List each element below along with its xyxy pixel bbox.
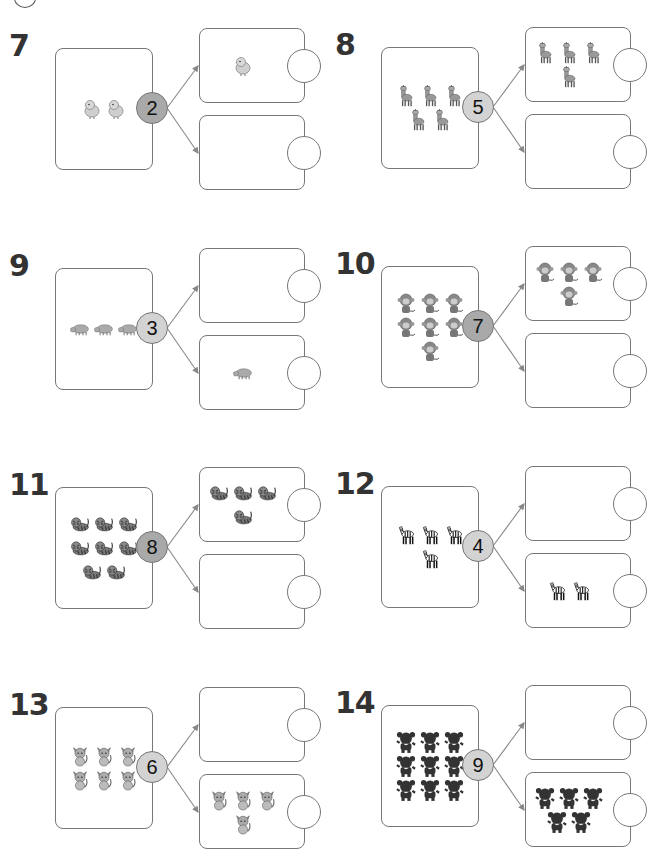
giraffe-icon xyxy=(535,42,555,64)
zebra-icon xyxy=(396,524,416,546)
total-number-circle: 9 xyxy=(462,749,494,781)
total-number-circle: 4 xyxy=(462,530,494,562)
giraffe-icon xyxy=(559,66,579,88)
total-number-circle: 6 xyxy=(136,751,168,783)
part-box-bottom xyxy=(525,553,631,628)
giraffe-icon xyxy=(583,42,603,64)
answer-circle-bottom[interactable] xyxy=(613,354,647,388)
part-box-bottom xyxy=(199,774,305,849)
problem-10: 107 xyxy=(335,246,665,446)
cat-icon xyxy=(233,789,253,811)
chick-icon xyxy=(82,98,102,120)
zebra-icon xyxy=(444,524,464,546)
problem-number: 14 xyxy=(335,685,375,720)
answer-circle-top[interactable] xyxy=(287,49,321,83)
total-number-circle: 3 xyxy=(136,312,168,344)
answer-circle-bottom[interactable] xyxy=(613,574,647,608)
bear-icon xyxy=(420,779,440,801)
total-number-circle: 5 xyxy=(462,91,494,123)
answer-circle-top[interactable] xyxy=(287,488,321,522)
cat-icon xyxy=(118,769,138,791)
bear-icon xyxy=(396,755,416,777)
answer-circle-bottom[interactable] xyxy=(287,356,321,390)
tiger-icon xyxy=(233,482,253,504)
part-box-bottom xyxy=(199,554,305,629)
part-box-bottom xyxy=(525,772,631,847)
total-number-circle: 8 xyxy=(136,531,168,563)
answer-circle-top[interactable] xyxy=(613,267,647,301)
zebra-icon xyxy=(571,580,591,602)
monkey-icon xyxy=(396,292,416,314)
answer-circle-top[interactable] xyxy=(613,487,647,521)
part-box-top xyxy=(199,467,305,542)
bear-icon xyxy=(396,731,416,753)
tiger-icon xyxy=(209,482,229,504)
answer-circle-top[interactable] xyxy=(613,48,647,82)
cat-icon xyxy=(233,813,253,835)
answer-circle-top[interactable] xyxy=(287,269,321,303)
monkey-icon xyxy=(444,316,464,338)
monkey-icon xyxy=(535,261,555,283)
giraffe-icon xyxy=(444,85,464,107)
part-box-bottom xyxy=(199,335,305,410)
tiger-icon xyxy=(106,561,126,583)
problem-number: 13 xyxy=(9,687,49,722)
clock-icon xyxy=(14,0,36,8)
problem-8: 85 xyxy=(335,27,665,227)
monkey-icon xyxy=(559,261,579,283)
tiger-icon xyxy=(94,537,114,559)
cat-icon xyxy=(94,769,114,791)
part-box-top xyxy=(525,685,631,760)
problem-number: 10 xyxy=(335,246,375,281)
cat-icon xyxy=(257,789,277,811)
total-number-circle: 2 xyxy=(136,92,168,124)
tiger-icon xyxy=(70,537,90,559)
monkey-icon xyxy=(420,340,440,362)
bear-icon xyxy=(420,731,440,753)
answer-circle-bottom[interactable] xyxy=(287,575,321,609)
problem-12: 124 xyxy=(335,466,665,666)
bear-icon xyxy=(547,811,567,833)
problem-14: 149 xyxy=(335,685,665,862)
bear-icon xyxy=(571,811,591,833)
bear-icon xyxy=(583,787,603,809)
part-box-bottom xyxy=(199,115,305,190)
problem-number: 9 xyxy=(9,248,29,283)
answer-circle-bottom[interactable] xyxy=(287,795,321,829)
answer-circle-bottom[interactable] xyxy=(613,135,647,169)
tiger-icon xyxy=(118,537,138,559)
part-box-bottom xyxy=(525,114,631,189)
cat-icon xyxy=(70,769,90,791)
monkey-icon xyxy=(420,316,440,338)
part-box-top xyxy=(199,248,305,323)
answer-circle-top[interactable] xyxy=(613,706,647,740)
answer-circle-top[interactable] xyxy=(287,708,321,742)
problem-number: 7 xyxy=(9,28,29,63)
zebra-icon xyxy=(420,524,440,546)
bear-icon xyxy=(535,787,555,809)
monkey-icon xyxy=(444,292,464,314)
part-box-top xyxy=(525,246,631,321)
giraffe-icon xyxy=(559,42,579,64)
problem-number: 12 xyxy=(335,466,375,501)
bear-icon xyxy=(559,787,579,809)
part-box-top xyxy=(525,27,631,102)
zebra-icon xyxy=(547,580,567,602)
problem-11: 118 xyxy=(9,467,339,667)
tiger-icon xyxy=(94,513,114,535)
answer-circle-bottom[interactable] xyxy=(287,136,321,170)
problem-7: 72 xyxy=(9,28,339,228)
bear-icon xyxy=(444,779,464,801)
tiger-icon xyxy=(118,513,138,535)
problem-number: 8 xyxy=(335,27,355,62)
total-number-circle: 7 xyxy=(462,310,494,342)
part-box-bottom xyxy=(525,333,631,408)
part-box-top xyxy=(199,28,305,103)
cat-icon xyxy=(94,745,114,767)
hippo-icon xyxy=(118,318,138,340)
tiger-icon xyxy=(257,482,277,504)
cat-icon xyxy=(70,745,90,767)
monkey-icon xyxy=(396,316,416,338)
answer-circle-bottom[interactable] xyxy=(613,793,647,827)
part-box-top xyxy=(199,687,305,762)
